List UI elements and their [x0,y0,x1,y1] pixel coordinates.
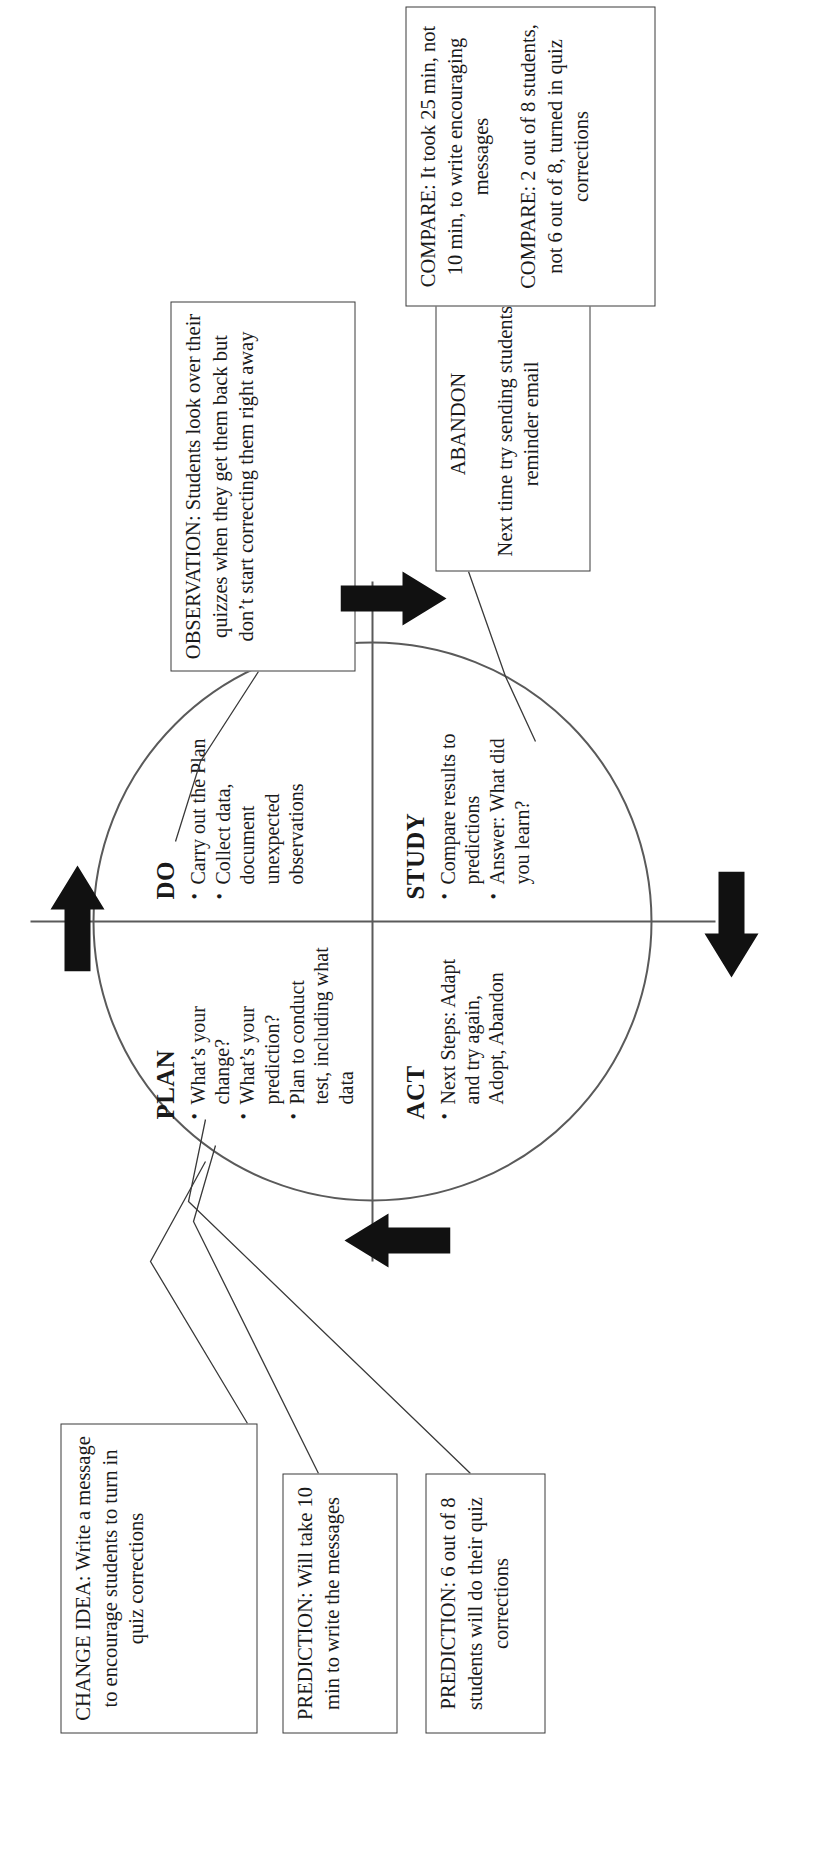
leader-change-idea [150,1161,247,1423]
arrow-plan-to-do [46,861,108,971]
callout-prediction-2: PREDICTION: 6 out of 8 students will do … [425,1473,545,1733]
callout-observation-text: OBSERVATION: Students look over their qu… [179,312,259,660]
callout-prediction-2-text: PREDICTION: 6 out of 8 students will do … [434,1484,514,1722]
leader-abandon [468,571,535,741]
callout-change-idea: CHANGE IDEA: Write a message to encourag… [60,1423,257,1733]
callout-prediction-1: PREDICTION: Will take 10 min to write th… [282,1473,397,1733]
callout-abandon: ABANDON Next time try sending students a… [435,276,590,571]
callout-abandon-title: ABANDON [444,287,471,560]
callout-compare-2-text: COMPARE: 2 out of 8 students, not 6 out … [514,17,594,295]
callout-compare: COMPARE: It took 25 min, not 10 min, to … [405,6,655,306]
callout-change-idea-text: CHANGE IDEA: Write a message to encourag… [69,1434,149,1722]
pdsa-diagram-page: PLAN What’s your change? What’s your pre… [0,0,816,1861]
arrow-act-to-plan [340,1209,450,1271]
callout-prediction-1-text: PREDICTION: Will take 10 min to write th… [291,1484,344,1722]
diagram-canvas: PLAN What’s your change? What’s your pre… [0,0,816,1861]
callout-observation: OBSERVATION: Students look over their qu… [170,301,355,671]
callout-compare-1-text: COMPARE: It took 25 min, not 10 min, to … [414,17,494,295]
arrow-study-to-act [700,871,762,981]
leader-observation [175,671,258,841]
callout-abandon-text: Next time try sending students a reminde… [491,287,544,560]
arrow-do-to-study [340,567,450,629]
